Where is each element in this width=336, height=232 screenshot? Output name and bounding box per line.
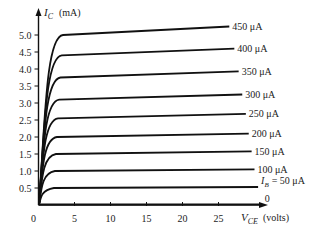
curve-label: IB= 50 μA [260,175,306,189]
curve-label: 250 μA [249,108,280,119]
y-tick-label: 3.5 [19,81,32,92]
y-tick-label: 0.5 [19,183,32,194]
y-axis-label: IC(mA) [43,6,81,21]
curve-label: 150 μA [255,146,286,157]
curve-label: 450 μA [232,21,263,32]
x-tick-label: 15 [142,213,152,224]
origin-label: 0 [31,213,36,224]
curve-150-a [39,151,252,205]
curve-label: 0 [265,193,270,204]
y-tick-label: 5.0 [19,30,32,41]
x-axis-label: VCE(volts) [241,211,289,226]
y-tick-label: 1.0 [19,166,32,177]
y-tick-label: 1.5 [19,149,32,160]
x-tick-label: 25 [214,213,224,224]
y-tick-label: 3.0 [19,98,32,109]
x-tick-label: 5 [72,213,77,224]
x-tick-label: 20 [178,213,188,224]
curve-label: 100 μA [258,164,289,175]
y-tick-label: 2.5 [19,115,32,126]
y-tick-label: 4.5 [19,47,32,58]
characteristic-curves: 450 μA400 μA350 μA300 μA250 μA200 μA150 … [39,21,306,205]
curve-label: 300 μA [245,89,276,100]
curve-label: 350 μA [242,66,273,77]
y-ticks: 0.51.01.52.02.53.03.54.04.55.0 [19,30,39,194]
transistor-output-characteristics-chart: 0.51.01.52.02.53.03.54.04.55.0 510152025… [0,0,336,232]
y-tick-label: 4.0 [19,64,32,75]
curve-label: 400 μA [237,43,268,54]
x-tick-label: 10 [106,213,116,224]
curve-350-a [39,71,239,205]
y-axis-arrow-icon [36,8,42,16]
y-tick-label: 2.0 [19,132,32,143]
axes [36,8,269,208]
curve-i-b-50-a [39,187,258,205]
curve-label: 200 μA [252,128,283,139]
curve-250-a [39,114,246,205]
